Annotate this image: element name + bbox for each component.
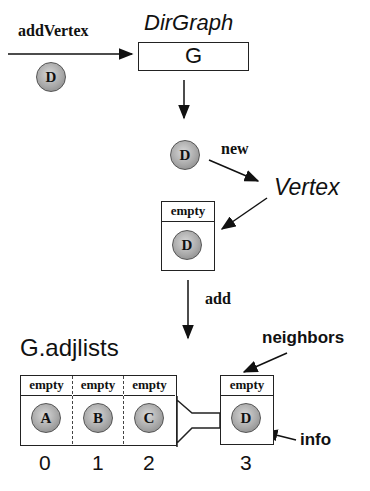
cell-header: empty [124, 376, 175, 396]
cell-header: empty [21, 376, 72, 396]
add-op-label: add [205, 290, 231, 308]
index-3: 3 [240, 451, 252, 475]
index-0: 0 [39, 451, 51, 475]
graph-g-box: G [138, 42, 249, 71]
new-op-label: new [221, 140, 249, 158]
adjlists-label: G.adjlists [20, 334, 119, 362]
neighbors-label: neighbors [262, 328, 344, 348]
created-vertex-node: D [172, 230, 202, 260]
info-label: info [300, 430, 331, 450]
adjlists-array: empty A empty B empty C [20, 375, 177, 446]
cell-header: empty [221, 376, 273, 396]
adjlist-cell-1: empty B [73, 376, 124, 444]
adjlist-cell-2: empty C [124, 376, 175, 444]
vertex-node-a: A [31, 403, 61, 433]
neighbors-header: empty [162, 202, 214, 222]
index-1: 1 [92, 451, 104, 475]
cell-header: empty [73, 376, 123, 396]
created-vertex-box: empty D [161, 201, 215, 271]
new-vertex-node: D [170, 140, 200, 170]
graph-g-label: G [139, 43, 248, 69]
index-2: 2 [143, 451, 155, 475]
vertex-node-b: B [83, 403, 113, 433]
adjlist-cell-0: empty A [21, 376, 73, 444]
vertex-node-c: C [134, 403, 164, 433]
add-vertex-label: addVertex [18, 22, 89, 40]
vertex-type-label: Vertex [274, 174, 340, 201]
adjlist-cell-3: empty D [220, 375, 274, 445]
vertex-node-d: D [231, 403, 261, 433]
dirgraph-type-label: DirGraph [144, 10, 233, 36]
incoming-vertex-node: D [36, 62, 66, 92]
